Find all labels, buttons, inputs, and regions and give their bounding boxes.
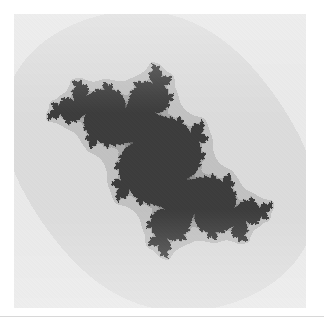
figure-separator-rule	[0, 316, 324, 317]
fractal-figure	[14, 14, 306, 308]
julia-set-fractal-canvas	[14, 14, 306, 308]
figure-page	[0, 0, 324, 325]
figure-caption	[0, 318, 324, 325]
